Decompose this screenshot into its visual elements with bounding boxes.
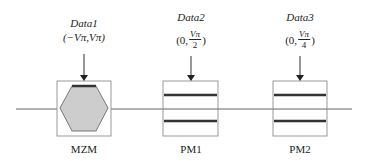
data3-label: Data3 (286, 11, 314, 23)
pm2-label: PM2 (289, 143, 310, 155)
pm2-block (273, 81, 327, 136)
mzm-label: MZM (71, 143, 97, 155)
mzm-block (57, 81, 111, 136)
fraction: Vπ 2 (189, 29, 201, 50)
pm1-label: PM1 (180, 143, 201, 155)
data1-label: Data1 (70, 17, 98, 29)
diagram-canvas (0, 0, 365, 161)
data2-param: (0, Vπ 2 ) (176, 29, 206, 50)
fraction: Vπ 4 (298, 29, 310, 50)
data3-param: (0, Vπ 4 ) (285, 29, 315, 50)
pm1-block (163, 81, 218, 136)
arrow-down-icon (80, 54, 88, 81)
arrow-down-icon (187, 56, 195, 81)
data2-label: Data2 (177, 11, 205, 23)
data1-param: (−Vπ,Vπ) (63, 31, 105, 43)
arrow-down-icon (296, 56, 304, 81)
